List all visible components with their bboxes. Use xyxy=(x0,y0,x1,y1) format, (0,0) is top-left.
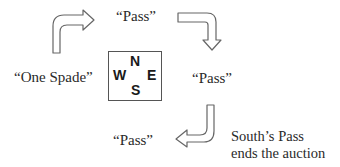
compass-north: N xyxy=(130,53,140,69)
arrow-west-to-north-icon xyxy=(53,10,94,53)
note-line-2: ends the auction xyxy=(231,145,325,162)
compass-south: S xyxy=(131,82,140,98)
arrow-north-to-east-icon xyxy=(178,13,221,50)
south-bid-label: “Pass” xyxy=(113,132,153,149)
compass-west: W xyxy=(113,67,126,83)
note-line-1: South’s Pass xyxy=(231,128,325,145)
north-bid-label: “Pass” xyxy=(116,8,156,25)
arrow-east-to-south-icon xyxy=(176,105,214,147)
compass-box: N W E S xyxy=(108,51,162,101)
compass-east: E xyxy=(147,67,156,83)
auction-end-note: South’s Pass ends the auction xyxy=(231,128,325,162)
west-bid-label: “One Spade” xyxy=(14,69,93,86)
east-bid-label: “Pass” xyxy=(192,70,232,87)
